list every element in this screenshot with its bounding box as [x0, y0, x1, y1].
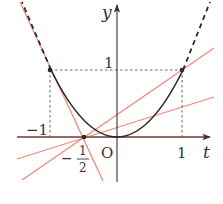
point-B	[180, 68, 185, 73]
y-axis-label: y	[101, 2, 112, 22]
x-tick-1: 1	[177, 144, 187, 162]
t-axis-label: t	[203, 142, 210, 162]
svg-text:2: 2	[79, 161, 87, 175]
origin-label: O	[101, 144, 113, 162]
parabola-diagram: y t O 1 −1 1 − 1 2	[0, 0, 223, 204]
x-tick-neg-half: − 1 2	[61, 144, 89, 175]
svg-text:−: −	[61, 150, 73, 166]
point-P	[82, 135, 87, 140]
point-A	[48, 68, 53, 73]
parabola-dashed-left	[22, 2, 51, 70]
y-tick-1: 1	[104, 54, 114, 72]
x-tick-neg1: −1	[26, 121, 48, 139]
svg-text:1: 1	[79, 144, 87, 158]
